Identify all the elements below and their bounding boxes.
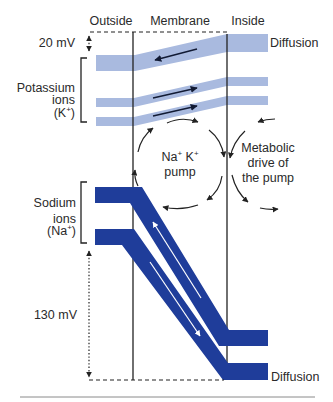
diagram-canvas: Outside Membrane Inside bbox=[0, 0, 333, 402]
sodium-diffusion-label: Diffusion bbox=[271, 370, 319, 384]
potassium-bracket bbox=[81, 58, 87, 122]
sodium-label-line1: Sodium bbox=[34, 196, 76, 210]
metabolic-arrow-icon bbox=[258, 119, 275, 122]
header-membrane: Membrane bbox=[150, 14, 210, 28]
metabolic-label-line1: Metabolic bbox=[241, 141, 295, 155]
cycle-arrow-icon bbox=[167, 119, 198, 123]
cycle-arrow-icon bbox=[138, 128, 153, 152]
metabolic-label-line2: drive of bbox=[248, 156, 290, 170]
sodium-ion-symbol: (Na+) bbox=[47, 223, 76, 238]
sodium-bracket bbox=[81, 182, 87, 243]
potassium-voltage-label: 20 mV bbox=[39, 36, 76, 50]
header-outside: Outside bbox=[89, 14, 132, 28]
pump-cycle-arrows bbox=[135, 119, 224, 208]
ion-pump-diagram: Outside Membrane Inside bbox=[0, 0, 333, 402]
sodium-band-diffusion bbox=[95, 229, 268, 380]
cycle-arrow-icon bbox=[209, 130, 224, 157]
cycle-arrow-icon bbox=[207, 176, 222, 200]
pump-label: pump bbox=[164, 165, 195, 179]
pump-ion-label: Na+ K+ bbox=[161, 149, 198, 164]
header-inside: Inside bbox=[231, 14, 264, 28]
potassium-bands bbox=[96, 34, 268, 126]
potassium-diffusion-label: Diffusion bbox=[270, 36, 318, 50]
metabolic-arrow-icon bbox=[260, 208, 278, 209]
potassium-ion-symbol: (K+) bbox=[54, 105, 75, 120]
sodium-voltage-label: 130 mV bbox=[34, 308, 78, 322]
sodium-bands bbox=[95, 187, 268, 380]
metabolic-label-line3: the pump bbox=[242, 171, 294, 185]
cycle-arrow-icon bbox=[163, 205, 198, 209]
potassium-label-line2: ions bbox=[52, 93, 75, 107]
cycle-arrow-icon bbox=[135, 170, 138, 186]
